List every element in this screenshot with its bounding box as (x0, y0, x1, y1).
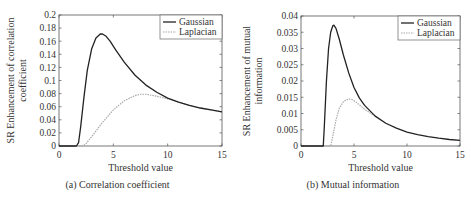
y-tick-label: 0.18 (39, 23, 56, 33)
y-tick-label: 0.005 (277, 125, 299, 135)
y-tick-label: 0.03 (281, 44, 298, 54)
y-tick-label: 0 (293, 141, 298, 151)
chart-panel-a: 00.020.040.060.080.10.120.140.160.180.20… (0, 0, 235, 202)
series-gaussian (301, 25, 460, 146)
legend-label-laplacian: Laplacian (417, 28, 455, 38)
x-tick-label: 5 (352, 150, 357, 160)
x-axis-title: Threshold value (348, 162, 413, 173)
legend-label-gaussian: Gaussian (417, 18, 452, 28)
y-tick-label: 0.06 (39, 102, 56, 112)
y-tick-label: 0.1 (44, 76, 56, 86)
y-axis-title-line2: coefficient (17, 59, 28, 102)
y-tick-label: 0.04 (39, 115, 56, 125)
y-tick-label: 0.2 (44, 10, 56, 20)
y-tick-label: 0.14 (39, 50, 56, 60)
y-tick-label: 0.12 (39, 63, 56, 73)
correlation-chart: 00.020.040.060.080.10.120.140.160.180.20… (0, 0, 235, 202)
y-tick-label: 0 (51, 141, 56, 151)
x-tick-label: 0 (299, 150, 304, 160)
mutual-information-chart: 00.0050.010.0150.020.0250.030.0350.04051… (235, 0, 471, 202)
y-axis-title-line1: SR Enhancement of mutual (241, 26, 252, 136)
y-tick-label: 0.02 (281, 76, 298, 86)
legend-label-gaussian: Gaussian (179, 17, 214, 27)
y-axis-title-line2: information (253, 57, 264, 104)
series-laplacian (301, 99, 375, 146)
y-tick-label: 0.16 (39, 37, 56, 47)
x-tick-label: 10 (402, 150, 412, 160)
x-tick-label: 0 (57, 150, 62, 160)
y-axis-title-line1: SR Enhancement of correlation (5, 18, 16, 144)
caption-b: (b) Mutual information (235, 179, 471, 190)
y-tick-label: 0.035 (277, 28, 299, 38)
y-tick-label: 0.04 (281, 11, 298, 21)
x-axis-title: Threshold value (108, 162, 173, 173)
chart-panel-b: 00.0050.010.0150.020.0250.030.0350.04051… (235, 0, 471, 202)
x-tick-label: 15 (217, 150, 227, 160)
series-gaussian (59, 34, 222, 146)
caption-a: (a) Correlation coefficient (0, 179, 235, 190)
y-tick-label: 0.01 (281, 109, 298, 119)
y-tick-label: 0.08 (39, 89, 56, 99)
legend-label-laplacian: Laplacian (179, 27, 217, 37)
x-tick-label: 10 (163, 150, 173, 160)
y-tick-label: 0.025 (277, 60, 299, 70)
y-tick-label: 0.02 (39, 128, 56, 138)
x-tick-label: 5 (111, 150, 116, 160)
x-tick-label: 15 (455, 150, 465, 160)
y-tick-label: 0.015 (277, 93, 299, 103)
